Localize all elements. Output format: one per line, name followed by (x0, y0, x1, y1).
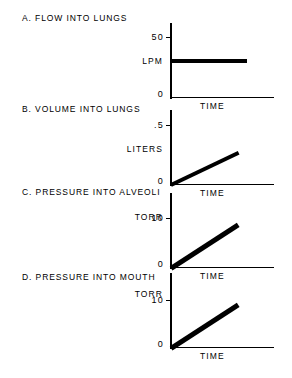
panel-a-y-tick-label-top: 50 (132, 32, 164, 42)
panel-b-plot-area: .5 0 LITERS TIME (170, 105, 274, 191)
panel-c-y-axis (170, 193, 172, 269)
panel-a-y-axis-label: LPM (93, 56, 163, 66)
panel-c-pressure-into-alveoli: C. PRESSURE INTO ALVEOLI 10 0 TORR TIME (0, 187, 292, 279)
panel-d-pressure-into-mouth: D. PRESSURE INTO MOUTH 10 0 TORR TIME (0, 272, 292, 367)
panel-c-y-tick-label-bottom: 0 (132, 259, 164, 269)
panel-c-title: C. PRESSURE INTO ALVEOLI (22, 187, 160, 197)
panel-a-title: A. FLOW INTO LUNGS (22, 13, 127, 23)
panel-c-data-line (170, 223, 240, 270)
panel-b-y-axis (170, 110, 172, 186)
panel-b-y-tick-top (166, 125, 171, 126)
panel-d-y-axis-label: TORR (93, 289, 163, 299)
panel-a-y-tick-top (166, 37, 171, 38)
panel-d-data-line (170, 303, 240, 350)
panel-d-y-axis (170, 273, 172, 349)
panel-c-y-tick-top (166, 218, 171, 219)
panel-d-y-tick-top (166, 300, 171, 301)
panel-c-plot-area: 10 0 TORR TIME (170, 188, 274, 274)
respiratory-waveform-figure: A. FLOW INTO LUNGS 50 0 LPM TIME B. VOLU… (0, 0, 292, 378)
panel-b-title: B. VOLUME INTO LUNGS (22, 104, 140, 114)
panel-a-plot-area: 50 0 LPM TIME (170, 18, 274, 100)
panel-b-y-axis-label: LITERS (78, 144, 163, 154)
panel-a-y-tick-label-bottom: 0 (132, 89, 164, 99)
panel-c-y-axis-label: TORR (93, 212, 163, 222)
panel-d-title: D. PRESSURE INTO MOUTH (22, 272, 155, 282)
panel-d-x-axis-label: TIME (200, 351, 225, 361)
panel-b-x-axis (170, 184, 274, 185)
panel-b-y-tick-label-top: .5 (132, 120, 164, 130)
panel-d-y-tick-label-bottom: 0 (132, 339, 164, 349)
panel-b-y-tick-label-bottom: 0 (132, 176, 164, 186)
panel-a-data-line (171, 59, 247, 63)
panel-b-data-line (170, 151, 239, 187)
panel-a-x-axis (170, 97, 274, 98)
panel-d-plot-area: 10 0 TORR TIME (170, 268, 274, 360)
panel-d-x-axis (170, 347, 274, 348)
panel-b-volume-into-lungs: B. VOLUME INTO LUNGS .5 0 LITERS TIME (0, 104, 292, 196)
panel-a-flow-into-lungs: A. FLOW INTO LUNGS 50 0 LPM TIME (0, 13, 292, 105)
